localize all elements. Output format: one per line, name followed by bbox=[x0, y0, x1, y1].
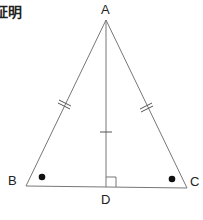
tick-mark-ab bbox=[58, 100, 71, 109]
angle-dot-c bbox=[169, 176, 176, 183]
side-ac bbox=[106, 20, 187, 188]
label-c: C bbox=[190, 174, 199, 189]
label-d: D bbox=[101, 192, 110, 207]
right-angle-mark bbox=[106, 177, 116, 187]
angle-dot-b bbox=[39, 174, 46, 181]
triangle-diagram: A B C D bbox=[0, 0, 203, 220]
label-a: A bbox=[101, 2, 110, 17]
label-b: B bbox=[8, 173, 17, 188]
